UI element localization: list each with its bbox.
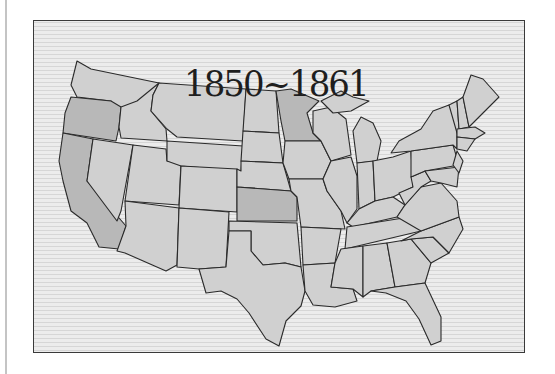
map-title: 1850~1861 <box>184 62 368 104</box>
state-nebraska <box>237 161 291 191</box>
state-kansas <box>237 187 297 221</box>
state-arkansas <box>301 227 341 265</box>
state-new-mexico <box>177 208 229 269</box>
state-colorado <box>179 166 237 212</box>
map-frame: 1850~1861 <box>33 20 525 353</box>
page-edge-line <box>5 0 7 374</box>
state-south-dakota <box>241 131 283 163</box>
